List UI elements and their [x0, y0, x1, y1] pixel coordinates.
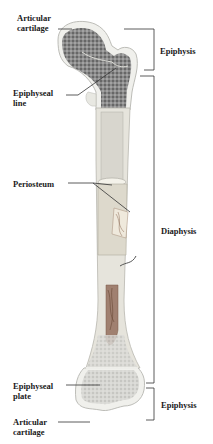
label-periosteum: Periosteum: [13, 179, 54, 189]
label-diaphysis: Diaphysis: [161, 226, 196, 236]
label-epiphysis-top: Epiphysis: [160, 46, 195, 56]
label-epiphyseal-plate: Epiphyseal plate: [13, 381, 53, 401]
bone-diagram: [0, 0, 213, 444]
label-articular-cartilage-top: Articular cartilage: [17, 13, 51, 33]
bracket-diaphysis: [140, 76, 154, 383]
distal-epiphysis: [75, 335, 144, 411]
label-epiphysis-bottom: Epiphysis: [161, 400, 196, 410]
label-epiphyseal-line: Epiphyseal line: [13, 88, 53, 108]
bracket-epiphysis-bottom: [146, 388, 154, 420]
diaphysis-shaft: [86, 108, 140, 368]
proximal-epiphysis: [58, 21, 137, 110]
label-articular-cartilage-bottom: Articular cartilage: [13, 417, 47, 437]
